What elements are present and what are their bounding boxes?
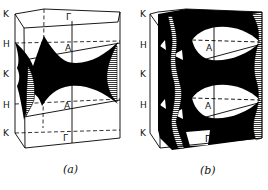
label-a-upper-a: A bbox=[65, 43, 72, 53]
label-a-lower-b: A bbox=[205, 101, 212, 111]
label-k-mid-a: K bbox=[3, 69, 10, 79]
fermi-surface-figure: K H K H K Γ A A Γ bbox=[0, 0, 268, 190]
panel-a: K H K H K Γ A A Γ bbox=[3, 9, 120, 148]
caption-b: (b) bbox=[200, 164, 216, 177]
label-gamma-bottom-a: Γ bbox=[63, 133, 68, 143]
label-h-upper-a: H bbox=[3, 39, 10, 49]
label-k-top-b: K bbox=[140, 9, 147, 19]
label-gamma-bottom-b: Γ bbox=[205, 134, 210, 144]
label-k-mid-b: K bbox=[140, 69, 147, 79]
label-h-lower-a: H bbox=[3, 100, 10, 110]
label-gamma-top-a: Γ bbox=[66, 12, 71, 22]
figure-canvas: K H K H K Γ A A Γ bbox=[0, 0, 268, 190]
caption-a: (a) bbox=[63, 163, 78, 176]
label-k-top-a: K bbox=[3, 9, 10, 19]
panel-b: K H K H K A A Γ bbox=[140, 9, 262, 150]
label-a-lower-a: A bbox=[64, 101, 71, 111]
label-k-bottom-a: K bbox=[3, 128, 10, 138]
label-h-upper-b: H bbox=[140, 40, 147, 50]
label-k-bottom-b: K bbox=[140, 128, 147, 138]
label-h-lower-b: H bbox=[140, 100, 147, 110]
label-a-upper-b: A bbox=[206, 43, 213, 53]
